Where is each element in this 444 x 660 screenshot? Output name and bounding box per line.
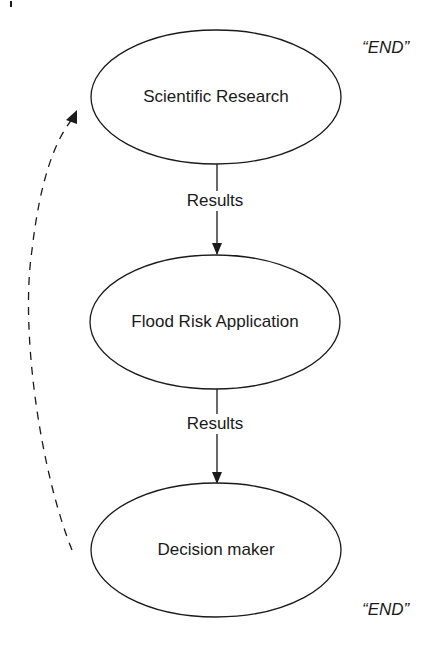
end-marker-top: “END” [362, 38, 409, 58]
edge-label-results-2: Results [185, 414, 246, 434]
edge-decision-to-research-dashed [28, 118, 73, 550]
arrowhead-icon [66, 110, 77, 124]
node-flood-risk-application-label: Flood Risk Application [131, 312, 298, 332]
arrowhead-icon [212, 243, 222, 255]
node-scientific-research-label: Scientific Research [143, 87, 289, 107]
node-decision-maker-label: Decision maker [157, 540, 274, 560]
arrowhead-icon [212, 472, 222, 484]
edge-label-results-1: Results [185, 191, 246, 211]
end-marker-bottom: “END” [362, 600, 409, 620]
